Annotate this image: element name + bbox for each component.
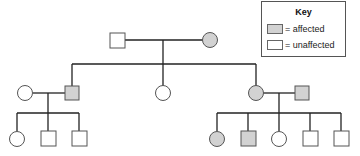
- legend-label-affected: = affected: [285, 24, 325, 34]
- male-unaffected-III-2: [41, 131, 56, 146]
- female-affected-I-2: [203, 33, 218, 48]
- male-unaffected-III-7: [303, 131, 318, 146]
- male-affected-II-5: [295, 86, 309, 100]
- male-affected-II-2: [65, 86, 79, 100]
- legend-box: Key = affected = unaffected: [261, 1, 346, 57]
- female-unaffected-III-1: [10, 132, 25, 147]
- legend-item-unaffected: = unaffected: [267, 40, 335, 50]
- legend-item-affected: = affected: [267, 24, 325, 34]
- legend-title: Key: [262, 7, 345, 17]
- unaffected-swatch: [267, 40, 283, 50]
- female-affected-III-4: [210, 132, 225, 147]
- male-unaffected-III-3: [72, 131, 87, 146]
- female-unaffected-II-3: [156, 86, 171, 101]
- female-unaffected-II-1: [18, 86, 33, 101]
- male-affected-III-5: [241, 131, 256, 146]
- female-unaffected-III-6: [272, 132, 287, 147]
- female-affected-II-4: [249, 86, 264, 101]
- affected-swatch: [267, 24, 283, 34]
- male-unaffected-I-1: [110, 33, 125, 48]
- male-unaffected-III-8: [334, 131, 349, 146]
- legend-label-unaffected: = unaffected: [285, 40, 335, 50]
